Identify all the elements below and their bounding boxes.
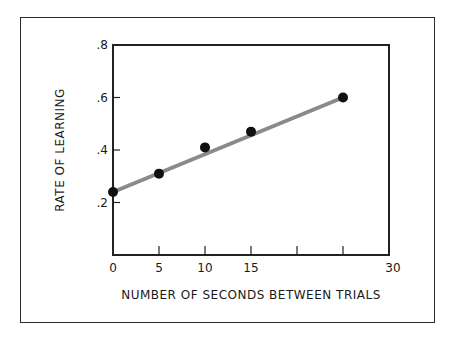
y-axis-title: RATE OF LEARNING [53,88,67,212]
data-point [154,169,164,179]
x-axis: 05101530 [109,246,400,275]
y-tick-label: .6 [97,91,108,105]
y-tick-label: .2 [97,196,108,210]
data-point [200,142,210,152]
y-tick-label: .4 [97,143,108,157]
chart: .2.4.6.8 05101530 NUMBER OF SECONDS BETW… [0,0,458,340]
data-point [246,127,256,137]
regression-line [113,98,343,193]
data-point [338,93,348,103]
x-tick-label: 15 [243,261,258,275]
x-axis-title: NUMBER OF SECONDS BETWEEN TRIALS [121,288,381,302]
y-tick-label: .8 [97,38,108,52]
data-point [108,187,118,197]
x-tick-label: 10 [197,261,212,275]
trend-line [113,98,343,193]
plot-border [113,45,389,255]
x-tick-label: 5 [155,261,163,275]
y-axis: .2.4.6.8 [97,38,120,210]
x-tick-label: 0 [109,261,117,275]
plot-area [113,45,389,255]
x-tick-label: 30 [385,261,400,275]
